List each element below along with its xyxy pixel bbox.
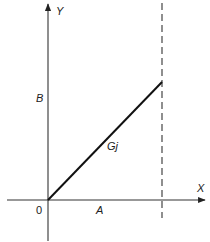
origin-label: 0: [36, 204, 42, 216]
a-label: A: [95, 204, 103, 216]
graph-canvas: Y B Gj 0 A X: [0, 0, 210, 242]
gj-line: [48, 82, 162, 200]
y-axis-label: Y: [56, 5, 64, 17]
x-axis-label: X: [196, 182, 205, 194]
b-label: B: [36, 92, 43, 104]
gj-label: Gj: [107, 140, 119, 152]
